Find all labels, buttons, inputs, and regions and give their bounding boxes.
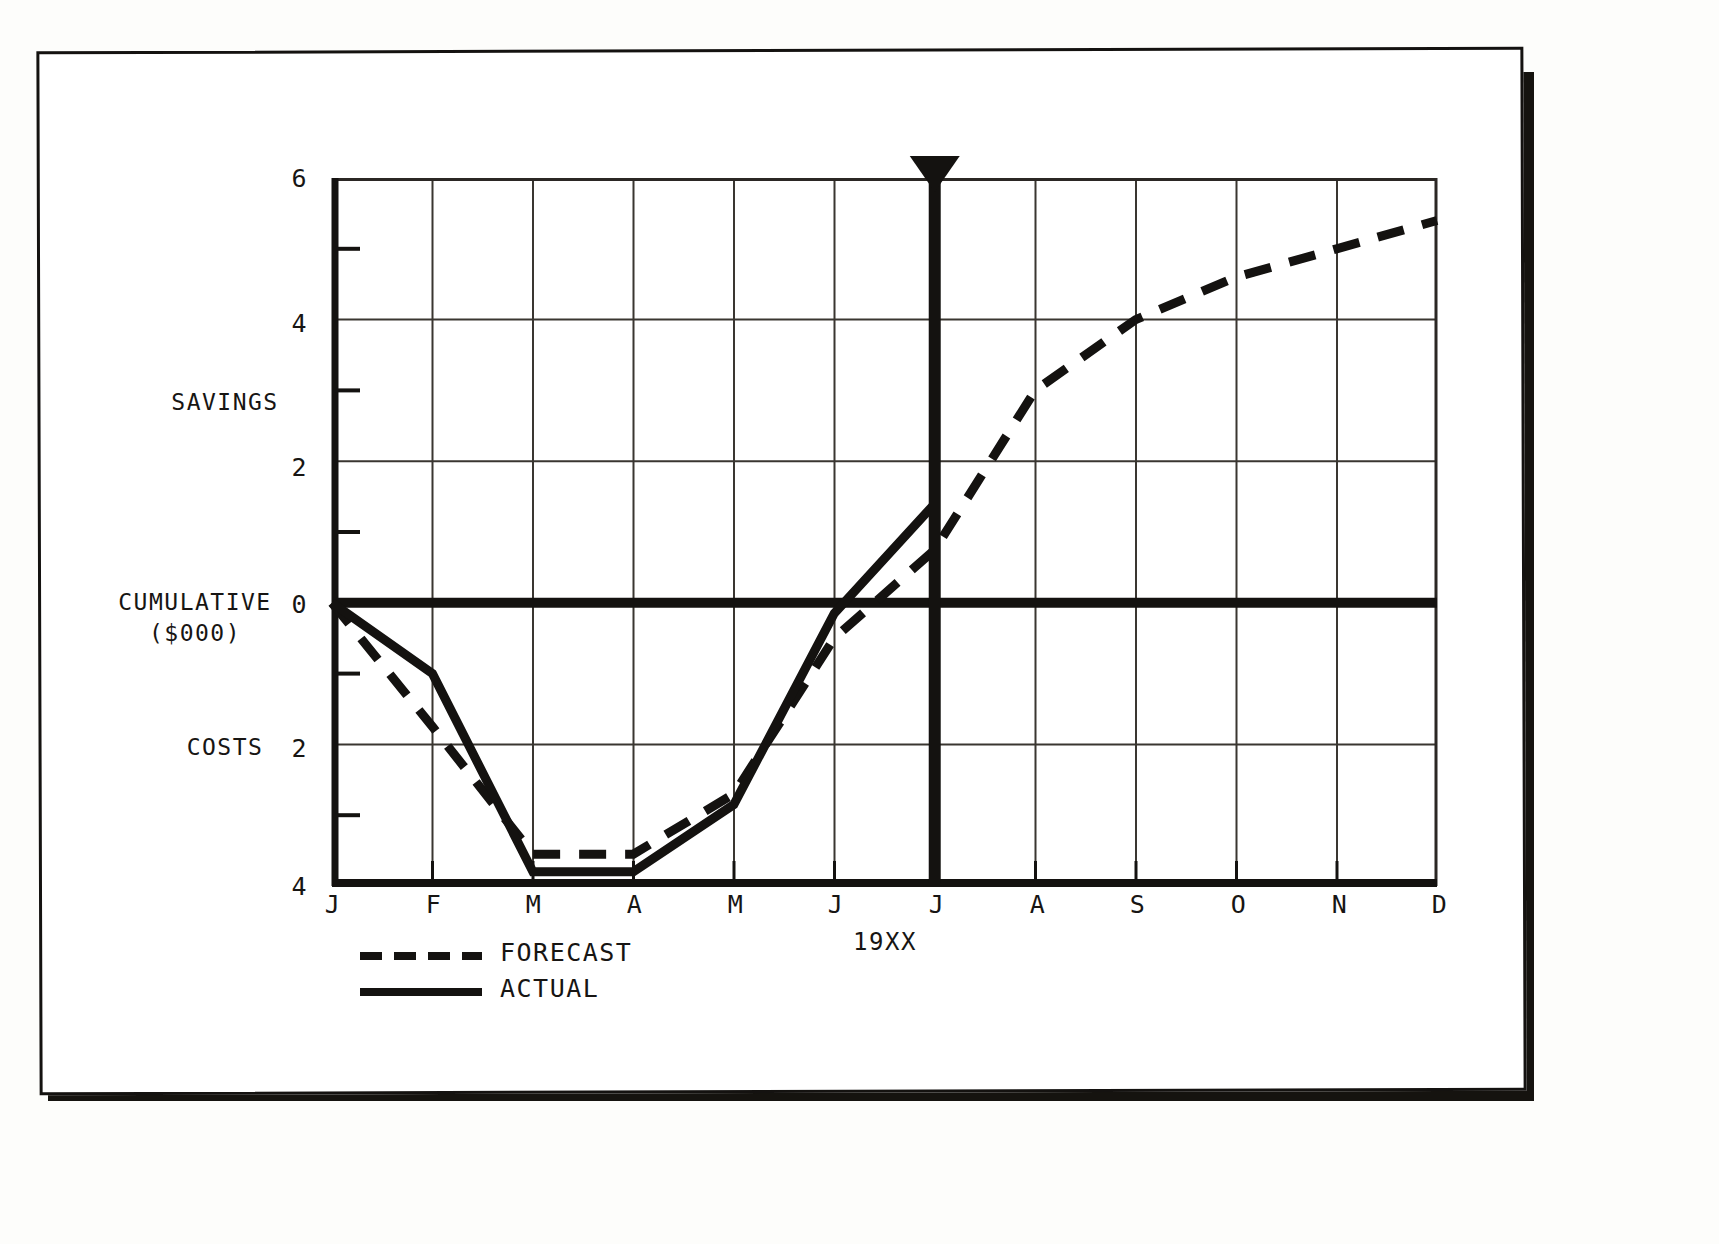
cumulative-label-line1: CUMULATIVE <box>80 588 310 617</box>
y-tick-label-6: 6 <box>268 164 308 193</box>
cumulative-cost-savings-chart: 6 4 2 0 2 4 SAVINGS CUMULATIVE ($000) CO… <box>0 0 1719 1244</box>
x-tick-label-sep: S <box>1118 890 1158 919</box>
plot-svg <box>332 178 1437 886</box>
legend-dashed-line-icon <box>360 952 482 960</box>
page-canvas: 6 4 2 0 2 4 SAVINGS CUMULATIVE ($000) CO… <box>0 0 1719 1244</box>
x-tick-label-oct: O <box>1219 890 1259 919</box>
legend-item-actual: ACTUAL <box>360 974 780 1010</box>
grid-horizontal <box>332 320 1437 745</box>
x-axis-title: 19XX <box>805 928 965 956</box>
axis-region-label-costs: COSTS <box>110 733 340 762</box>
axis-region-label-savings: SAVINGS <box>110 388 340 417</box>
cumulative-label-line2: ($000) <box>80 619 310 648</box>
x-tick-label-apr: A <box>615 890 655 919</box>
x-tick-label-may: M <box>716 890 756 919</box>
grid-vertical <box>433 178 1338 886</box>
legend-item-forecast: FORECAST <box>360 938 780 974</box>
legend-label-actual: ACTUAL <box>500 974 599 1003</box>
x-tick-label-jan: J <box>313 890 353 919</box>
plot-frame <box>332 178 1437 886</box>
plot-area <box>332 178 1437 886</box>
chart-legend: FORECAST ACTUAL <box>360 938 780 1010</box>
legend-label-forecast: FORECAST <box>500 938 632 967</box>
x-tick-label-nov: N <box>1320 890 1360 919</box>
x-tick-label-mar: M <box>514 890 554 919</box>
axis-region-label-cumulative: CUMULATIVE ($000) <box>80 588 310 647</box>
x-tick-label-aug: A <box>1018 890 1058 919</box>
y-tick-label-2: 2 <box>268 453 308 482</box>
series-forecast-line <box>332 220 1437 854</box>
x-tick-label-jun: J <box>816 890 856 919</box>
legend-solid-line-icon <box>360 988 482 996</box>
y-axis-minor-ticks <box>335 249 360 815</box>
today-marker-arrow-icon <box>910 156 960 192</box>
x-tick-label-feb: F <box>414 890 454 919</box>
x-tick-label-dec: D <box>1420 890 1460 919</box>
y-tick-label-minus4: 4 <box>268 872 308 901</box>
y-tick-label-4: 4 <box>268 309 308 338</box>
x-tick-label-jul: J <box>917 890 957 919</box>
